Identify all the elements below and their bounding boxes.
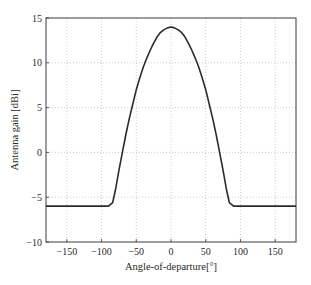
gain-curve [46, 27, 296, 206]
y-tick-label: −5 [31, 192, 42, 203]
y-tick-label: −10 [26, 237, 42, 248]
x-tick-label: −100 [91, 246, 112, 257]
grid-lines [46, 18, 296, 242]
y-tick-label: 15 [32, 13, 42, 24]
y-tick-label: 10 [32, 57, 42, 68]
x-tick-label: 100 [233, 246, 248, 257]
x-tick-label: −50 [128, 246, 144, 257]
x-tick-label: 50 [201, 246, 211, 257]
y-axis-label: Antenna gain [dBi] [9, 89, 20, 170]
plot-area [46, 27, 296, 206]
y-tick-label: 0 [37, 147, 42, 158]
x-axis-label: Angle-of-departure[°] [125, 261, 217, 272]
y-tick-label: 5 [37, 102, 42, 113]
antenna-gain-chart: −150−100−50050100150 −10−5051015 Angle-o… [0, 0, 311, 285]
x-tick-label: −150 [57, 246, 78, 257]
x-tick-label: 0 [169, 246, 174, 257]
x-tick-label: 150 [268, 246, 283, 257]
